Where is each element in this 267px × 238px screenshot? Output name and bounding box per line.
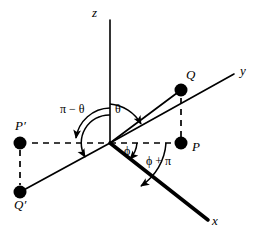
angle-label-theta: θ [115,103,121,115]
axes-group [110,20,234,220]
solid-rays-group [20,90,181,192]
axis-label-z: z [92,6,97,19]
point-Q-label: Q [186,68,195,81]
angle-label-phi-plus-pi: ϕ + π [146,155,171,167]
angle-label-pi-minus-theta: π − θ [60,103,85,115]
diagram-svg [0,0,267,238]
y-axis [110,74,234,143]
point-P-prime [14,137,27,150]
angle-arcs-group [76,104,166,186]
point-P [175,137,188,150]
point-P-prime-label: P′ [15,119,26,132]
arc-phi-small [130,143,137,159]
axis-label-x: x [212,214,218,227]
point-Q [175,84,188,97]
axis-label-y: y [240,64,246,77]
figure-canvas: zyxQPP′Q′π − θθϕϕ + π [0,0,267,238]
point-Q-prime-label: Q′ [14,198,26,211]
angle-label-phi: ϕ [124,145,130,157]
ray-origin-to-Q [110,90,181,143]
point-P-label: P [192,140,200,153]
ray-origin-to-Q-prime [20,143,110,192]
